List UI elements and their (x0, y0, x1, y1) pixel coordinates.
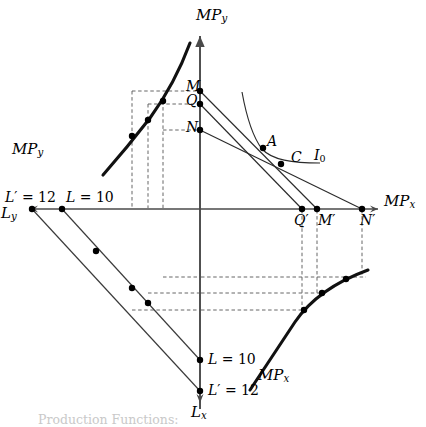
dot-L10-left (59, 206, 65, 212)
label-l-10-bottom: L = 10 (208, 352, 256, 366)
ly-axis-label: Ly (1, 206, 17, 222)
dot-mpy-N (129, 133, 135, 139)
dot-A (260, 145, 266, 151)
dot-mpy-M (160, 98, 166, 104)
dot-L10-bottom (197, 357, 203, 363)
figure-caption: Production Functions: (38, 414, 179, 427)
point-label-Q: Q (186, 93, 197, 107)
label-l-10-left: L = 10 (66, 190, 114, 204)
point-label-A: A (267, 134, 277, 148)
mp-y-curve-label: MPy (12, 142, 43, 158)
production-function-diagram: MPy MPx Ly Lx MPy MPx I0 M Q N Q′ M′ N′ … (0, 0, 426, 427)
dot-constraint-a (93, 248, 99, 254)
dot-Lprime12-bottom (197, 388, 203, 394)
indifference-curve-I0 (242, 92, 320, 163)
dot-mpx-Qprime (301, 307, 307, 313)
mp-x-curve-label: MPx (258, 368, 289, 384)
mp-y-axis-label: MPy (196, 8, 227, 24)
dot-mpx-Mprime (319, 290, 325, 296)
constraint-line-Lprime12 (32, 209, 200, 391)
dot-Q (197, 101, 203, 107)
point-label-C: C (291, 150, 302, 164)
constraint-line-L10 (62, 209, 200, 360)
dot-constraint-b (129, 285, 135, 291)
labour-constraint-lines (32, 209, 200, 391)
point-label-N: N (186, 120, 198, 134)
point-label-N-prime: N′ (360, 213, 375, 227)
indifference-curve-label: I0 (314, 148, 326, 164)
point-label-M: M (186, 79, 200, 93)
dashed-projections-upper-left (132, 91, 199, 208)
point-label-Q-prime: Q′ (294, 213, 309, 227)
dot-mpx-Nprime (343, 276, 349, 282)
dot-Lprime12-left (29, 206, 35, 212)
mp-y-curve (103, 43, 190, 175)
dot-mpy-Q (145, 117, 151, 123)
price-line-Q-Qprime (200, 104, 302, 209)
dot-C (278, 161, 284, 167)
price-lines (200, 91, 362, 209)
label-lprime-12-bottom: L′ = 12 (208, 383, 259, 397)
dot-constraint-c (145, 300, 151, 306)
point-label-M-prime: M′ (318, 213, 336, 227)
lx-axis-label: Lx (191, 405, 207, 421)
mp-x-axis-label: MPx (384, 194, 415, 210)
label-lprime-12-left: L′ = 12 (5, 190, 56, 204)
price-line-N-Nprime (200, 130, 362, 209)
